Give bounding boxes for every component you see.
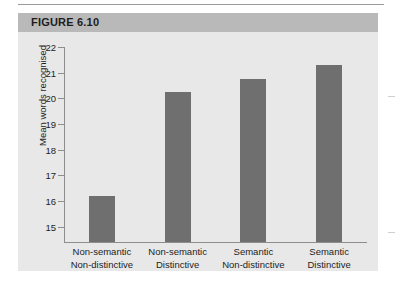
x-axis-label: Non-semanticNon-distinctive: [64, 246, 140, 271]
bar: [316, 65, 342, 242]
x-label-line: Distinctive: [291, 259, 367, 272]
page-top-rule: [18, 4, 384, 5]
y-tick-label: 21: [22, 67, 56, 78]
y-tick-label: 16: [22, 195, 56, 206]
x-label-line: Distinctive: [140, 259, 216, 272]
x-label-line: Semantic: [291, 246, 367, 259]
x-axis-labels: Non-semanticNon-distinctiveNon-semanticD…: [64, 246, 374, 284]
figure-header-band: FIGURE 6.10: [18, 13, 378, 32]
x-label-line: Non-semantic: [64, 246, 140, 259]
x-axis-label: SemanticNon-distinctive: [216, 246, 292, 271]
y-tick-label: 19: [22, 118, 56, 129]
bar-series: [64, 32, 378, 271]
x-label-line: Non-semantic: [140, 246, 216, 259]
figure-container: FIGURE 6.10 Mean words recognised 151617…: [18, 13, 378, 271]
x-axis-label: Non-semanticDistinctive: [140, 246, 216, 271]
margin-mark-top: [388, 96, 395, 97]
x-label-line: Non-distinctive: [64, 259, 140, 272]
chart-plot-area: Mean words recognised 1516171819202122 N…: [18, 32, 378, 271]
bar: [165, 92, 191, 242]
y-tick-label: 15: [22, 221, 56, 232]
x-axis-label: SemanticDistinctive: [291, 246, 367, 271]
y-tick-label: 18: [22, 144, 56, 155]
bar: [240, 79, 266, 242]
margin-mark-bottom: [388, 232, 395, 233]
page: FIGURE 6.10 Mean words recognised 151617…: [0, 0, 402, 284]
y-tick-label: 20: [22, 93, 56, 104]
x-label-line: Non-distinctive: [216, 259, 292, 272]
y-tick-label: 22: [22, 42, 56, 53]
bar: [89, 196, 115, 242]
y-tick-label: 17: [22, 170, 56, 181]
x-label-line: Semantic: [216, 246, 292, 259]
